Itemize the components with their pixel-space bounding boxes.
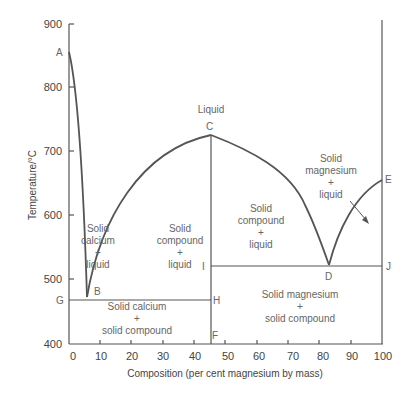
svg-text:+: +	[95, 247, 101, 258]
point-label-i: I	[202, 261, 205, 272]
svg-text:+: +	[328, 177, 334, 188]
svg-text:Solid: Solid	[87, 223, 109, 234]
x-tick-30: 30	[157, 350, 169, 362]
svg-text:+: +	[177, 247, 183, 258]
y-tick-400: 400	[44, 338, 62, 350]
svg-text:calcium: calcium	[81, 235, 115, 246]
x-tick-0: 0	[70, 350, 76, 362]
y-tick-800: 800	[44, 81, 62, 93]
svg-text:Solid magnesium: Solid magnesium	[262, 289, 339, 300]
liquidus-b-c	[87, 135, 211, 297]
point-label-f: F	[212, 330, 218, 341]
x-axis-title: Composition (per cent magnesium by mass)	[127, 368, 323, 379]
x-tick-80: 80	[317, 350, 329, 362]
point-label-d: D	[325, 271, 332, 282]
x-tick-labels: 0 10 20 30 40 50 60 70 80 90 100	[70, 350, 392, 362]
x-tick-50: 50	[222, 350, 234, 362]
svg-text:solid compound: solid compound	[102, 325, 172, 336]
point-label-h: H	[213, 295, 220, 306]
svg-text:Solid calcium: Solid calcium	[108, 301, 167, 312]
region-solid-compound-liquid-right: Solid compound + liquid	[238, 203, 285, 250]
x-tick-90: 90	[346, 350, 358, 362]
y-tick-500: 500	[44, 273, 62, 285]
y-axis-title: Temperature/°C	[27, 150, 38, 220]
point-label-e: E	[385, 174, 392, 185]
phase-diagram: 900 800 700 600 500 400 0 10 20 30 40 50…	[0, 0, 413, 394]
x-tick-20: 20	[126, 350, 138, 362]
svg-text:liquid: liquid	[319, 189, 342, 200]
x-tick-60: 60	[253, 350, 265, 362]
x-tick-10: 10	[95, 350, 107, 362]
x-tick-100: 100	[374, 350, 392, 362]
svg-text:magnesium: magnesium	[305, 165, 357, 176]
svg-text:Solid: Solid	[169, 223, 191, 234]
x-tick-70: 70	[287, 350, 299, 362]
svg-text:+: +	[258, 227, 264, 238]
svg-text:+: +	[134, 313, 140, 324]
y-tick-900: 900	[44, 18, 62, 30]
svg-text:liquid: liquid	[249, 239, 272, 250]
region-solid-magnesium-solid-compound: Solid magnesium + solid compound	[262, 289, 339, 324]
region-solid-compound-liquid-left: Solid compound + liquid	[157, 223, 204, 270]
point-label-b: B	[94, 286, 101, 297]
svg-text:+: +	[297, 301, 303, 312]
x-tick-40: 40	[189, 350, 201, 362]
svg-text:liquid: liquid	[86, 259, 109, 270]
liquidus-a-b	[69, 52, 87, 297]
point-label-a: A	[56, 47, 63, 58]
region-solid-magnesium-liquid: Solid magnesium + liquid	[305, 153, 357, 200]
y-tick-600: 600	[44, 209, 62, 221]
region-liquid: Liquid	[198, 104, 225, 115]
y-tick-700: 700	[44, 145, 62, 157]
region-solid-calcium-solid-compound: Solid calcium + solid compound	[102, 301, 172, 336]
svg-text:compound: compound	[238, 215, 285, 226]
point-label-j: J	[386, 261, 391, 272]
svg-text:liquid: liquid	[168, 259, 191, 270]
svg-text:Solid: Solid	[250, 203, 272, 214]
svg-text:compound: compound	[157, 235, 204, 246]
svg-text:solid compound: solid compound	[265, 313, 335, 324]
point-label-c: C	[206, 121, 213, 132]
point-label-g: G	[56, 295, 64, 306]
svg-text:Solid: Solid	[320, 153, 342, 164]
